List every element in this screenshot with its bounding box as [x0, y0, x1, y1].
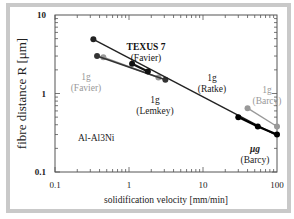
x-tick-label: 100 — [270, 180, 284, 190]
x-tick-label: 0.1 — [49, 180, 60, 190]
series-label: 1g — [81, 72, 91, 82]
x-axis-label: solidification velocity [mm/min] — [104, 195, 228, 205]
data-point — [145, 69, 151, 75]
series-label: (Ratke) — [198, 84, 227, 95]
series-line — [93, 39, 277, 135]
series-label: (Barcy) — [240, 155, 269, 166]
y-tick-label: 1 — [42, 89, 47, 99]
series-label: μg — [249, 144, 260, 154]
series-label: (Favier) — [71, 83, 102, 94]
data-point — [274, 132, 280, 138]
series-label: TEXUS 7 — [127, 42, 166, 52]
figure: 0.11101000.1110solidification velocity [… — [0, 0, 294, 219]
alloy-annotation: Al-Al3Ni — [78, 133, 115, 143]
x-tick-label: 10 — [199, 180, 209, 190]
data-point — [255, 123, 261, 129]
y-axis-label: fibre distance R [μm] — [14, 38, 29, 149]
series-label: 1g — [150, 95, 160, 105]
series-label: 1g — [262, 85, 272, 95]
data-point — [235, 114, 241, 120]
series-label: 1g — [207, 73, 217, 83]
data-point — [90, 36, 96, 42]
series-label: (Barcy) — [252, 96, 281, 107]
series-label: (Lemkey) — [136, 106, 173, 117]
series-label: (Favier) — [131, 53, 162, 64]
y-tick-label: 0.1 — [35, 167, 47, 177]
x-tick-label: 1 — [127, 180, 132, 190]
data-point — [274, 123, 280, 129]
y-tick-label: 10 — [37, 10, 47, 20]
chart-plot: 0.11101000.1110solidification velocity [… — [0, 0, 294, 219]
plot-area — [55, 15, 277, 172]
data-point — [94, 53, 100, 59]
data-point — [245, 105, 251, 111]
